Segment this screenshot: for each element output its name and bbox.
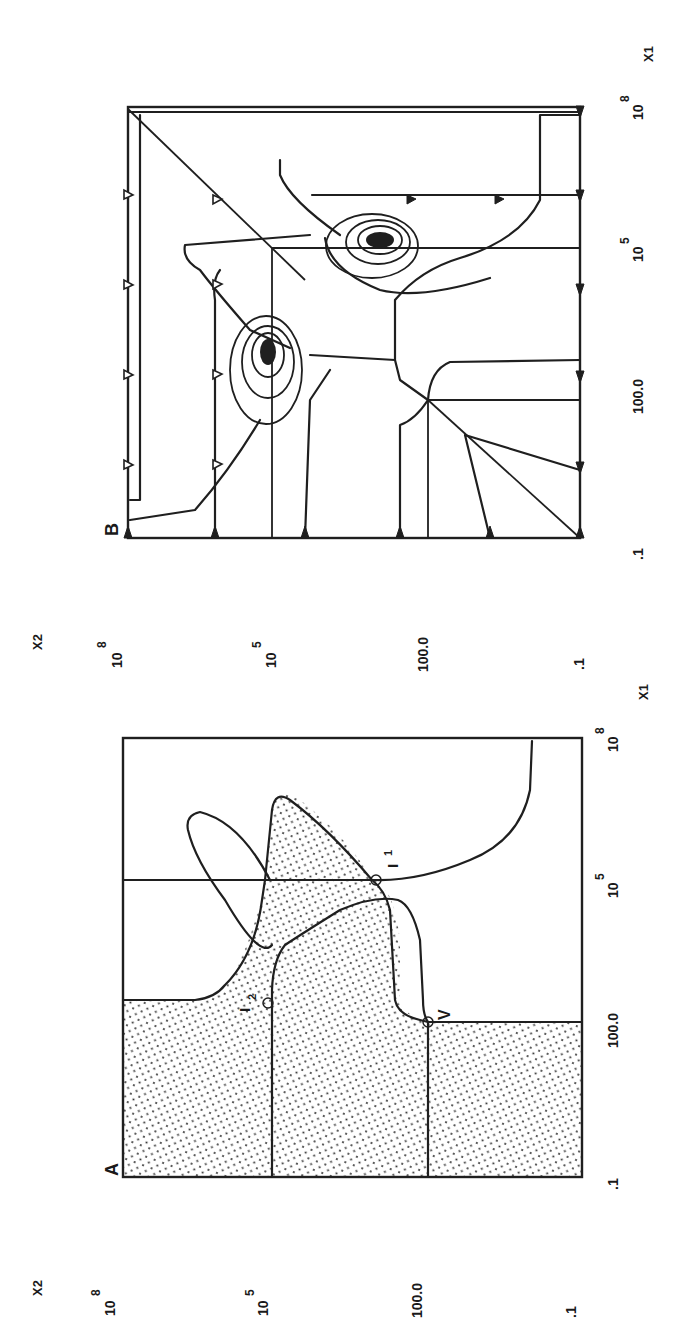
b-x2-tick-1e8-exp: 8	[95, 641, 109, 648]
x1-tick-01: .1	[605, 1178, 621, 1190]
x2-tick-01: .1	[563, 1306, 579, 1318]
corner-region-a	[428, 1022, 582, 1177]
figure-canvas: V I 1 I 2 A .1 100.0 10 5 10 8 X1 X2 10 …	[0, 0, 675, 1328]
b-x2-tick-01: .1	[571, 658, 587, 670]
point-i1-label: I	[384, 864, 401, 868]
point-i2-sub: 2	[246, 994, 258, 1000]
trajectory-mid	[310, 355, 395, 360]
trajectory-diagonal-top	[128, 109, 305, 280]
x2-tick-100: 100.0	[409, 1283, 425, 1318]
x1-axis-b: .1 100.0 10 5 10 8 X1	[618, 46, 656, 560]
x2-tick-1e5-exp: 5	[243, 1289, 257, 1296]
b-x2-tick-1e5: 10	[263, 652, 279, 668]
b-x1-tick-1e8-exp: 8	[618, 95, 632, 102]
panel-b-frame	[128, 107, 580, 538]
b-x1-tick-01: .1	[630, 548, 646, 560]
x1-tick-100: 100.0	[605, 1013, 621, 1048]
point-i1-sub: 1	[382, 850, 394, 856]
panel-b-label: B	[102, 523, 122, 536]
trajectory-b-lower	[305, 370, 330, 538]
b-x2-tick-1e5-exp: 5	[250, 641, 264, 648]
b-x2-axis-label: X2	[30, 634, 45, 650]
b-x1-tick-1e8: 10	[630, 104, 646, 120]
x2-tick-1e8-exp: 8	[89, 1289, 103, 1296]
x2-tick-1e5: 10	[255, 1300, 271, 1316]
panel-b: B .1 100.0 10 5 10 8 X1 X2 10 8 10 5 100…	[30, 46, 656, 672]
x1-tick-1e5: 10	[605, 882, 621, 898]
x2-tick-1e8: 10	[102, 1300, 118, 1316]
b-x2-tick-100: 100.0	[415, 637, 431, 672]
x1-axis-label: X1	[636, 684, 651, 700]
x2-axis-b: X2 10 8 10 5 100.0 .1	[30, 634, 587, 672]
b-x1-tick-1e5: 10	[630, 246, 646, 262]
trajectory-right-curve	[400, 360, 580, 538]
trajectory-upper	[280, 160, 340, 235]
x2-axis-label: X2	[30, 1280, 45, 1296]
b-x1-axis-label: X1	[641, 46, 656, 62]
x1-axis-a: .1 100.0 10 5 10 8 X1	[593, 684, 651, 1190]
x1-tick-1e5-exp: 5	[593, 873, 607, 880]
point-v-label: V	[436, 1009, 453, 1020]
x2-axis-a: X2 10 8 10 5 100.0 .1	[30, 1280, 579, 1318]
trajectory-left-flow	[214, 270, 220, 538]
x1-tick-1e8-exp: 8	[593, 727, 607, 734]
b-x1-tick-1e5-exp: 5	[618, 237, 632, 244]
trajectory-diagonal-bottom	[428, 400, 580, 538]
trajectory-top-right	[395, 115, 580, 400]
x1-tick-1e8: 10	[605, 736, 621, 752]
panel-a-label: A	[102, 1163, 122, 1176]
spiral-focus-1	[325, 214, 490, 293]
panel-a: V I 1 I 2 A .1 100.0 10 5 10 8 X1 X2 10 …	[30, 684, 651, 1318]
point-i2-label: I	[236, 1008, 253, 1012]
b-x1-tick-100: 100.0	[630, 379, 646, 414]
b-x2-tick-1e8: 10	[109, 652, 125, 668]
trajectory-right-edge-1	[130, 115, 140, 500]
